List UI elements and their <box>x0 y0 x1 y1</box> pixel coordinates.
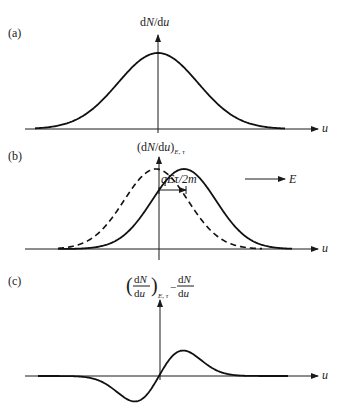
panel-c-y-label: ( dN du ) E, τ − dN du <box>126 273 194 300</box>
panel-c-x-label: u <box>322 368 328 382</box>
field-label: E <box>288 172 297 186</box>
panel-c: (c) ( dN du ) E, τ − dN du u <box>8 273 328 401</box>
frac2-den: du <box>178 287 190 299</box>
panel-b: (b) (dN/du)E, τ u qEτ/2m E <box>8 140 328 260</box>
frac2-num: dN <box>178 273 192 285</box>
diagram-canvas: (a) dN/du u (b) (dN/du)E, τ u qEτ/2m E (… <box>0 0 345 413</box>
panel-a-label: (a) <box>8 26 21 40</box>
paren-left: ( <box>126 274 133 297</box>
frac1-den: du <box>134 287 146 299</box>
minus-sign: − <box>170 281 176 293</box>
panel-a-x-label: u <box>322 121 328 135</box>
panel-a: (a) dN/du u <box>8 15 328 135</box>
panel-b-equilibrium-curve <box>58 169 262 249</box>
panel-b-label: (b) <box>8 149 22 163</box>
panel-a-y-label: dN/du <box>140 15 169 29</box>
frac1-num: dN <box>134 273 148 285</box>
panel-b-x-label: u <box>322 241 328 255</box>
frac1-sub: E, τ <box>157 292 169 300</box>
panel-a-curve <box>35 53 285 129</box>
panel-c-label: (c) <box>8 274 21 288</box>
paren-right: ) <box>151 274 158 297</box>
panel-b-y-label: (dN/du)E, τ <box>137 140 185 156</box>
